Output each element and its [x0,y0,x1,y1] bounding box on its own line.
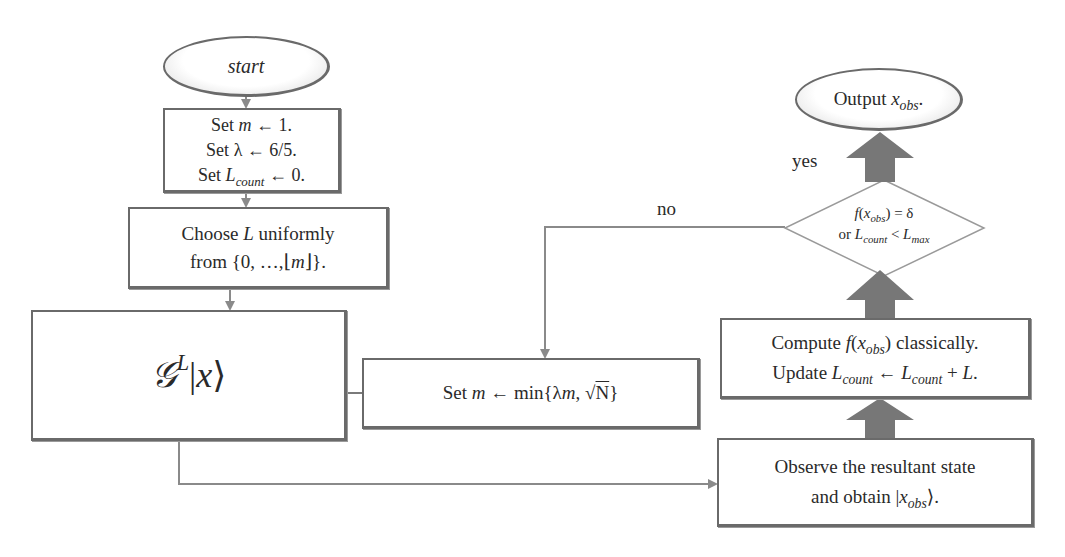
init-line-lcount: Set Lcount ← 0. [198,163,305,188]
grover-expression: 𝒢L|x⟩ [151,363,227,387]
decision-line-1: f(xobs) = δ [800,203,968,224]
thick-arrow-decision-to-output [846,132,914,182]
grover-box: 𝒢L|x⟩ [31,310,347,441]
edge-grover-to-observe [179,440,716,484]
edge-label-no: no [657,198,676,220]
choose-line-1: Choose L uniformly [181,220,334,248]
thick-arrow-observe-to-compute [846,398,914,438]
compute-line-2: Update Lcount ← Lcount + L. [772,358,978,388]
start-node: start [163,36,330,97]
update-m-box: Set m ← min{λm, √N} [362,358,700,429]
edge-label-yes: yes [792,150,817,172]
start-label: start [228,55,265,78]
compute-line-1: Compute f(xobs) classically. [771,328,978,358]
grover-operator: 𝒢 [151,355,177,395]
observe-box: Observe the resultant state and obtain |… [717,438,1034,527]
decision-line-2: or Lcount < Lmax [800,224,968,245]
init-box: Set m ← 1. Set λ ← 6/5. Set Lcount ← 0. [163,108,341,193]
observe-line-2: and obtain |xobs⟩. [811,482,939,512]
thick-arrow-compute-to-decision [846,270,914,318]
output-node: Output xobs. [795,68,963,131]
compute-box: Compute f(xobs) classically. Update Lcou… [720,318,1031,399]
update-m-text: Set m ← min{λm, √N} [443,381,619,405]
init-line-lambda: Set λ ← 6/5. [206,138,297,163]
decision-text: f(xobs) = δ or Lcount < Lmax [800,203,968,245]
init-line-m: Set m ← 1. [211,113,292,138]
choose-line-2: from {0, …,⌊m⌋}. [190,248,326,276]
observe-line-1: Observe the resultant state [774,452,975,482]
output-label: Output xobs. [834,88,924,110]
choose-box: Choose L uniformly from {0, …,⌊m⌋}. [128,207,389,289]
